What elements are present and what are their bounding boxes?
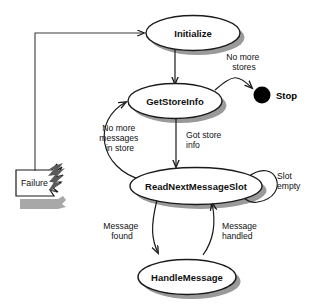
transition-label-no-more-stores: No more stores xyxy=(226,52,261,72)
label-line: info xyxy=(186,140,200,150)
state-node-initialize[interactable]: Initialize xyxy=(146,16,240,51)
label-line: Message xyxy=(103,221,138,231)
get-store-info-label: GetStoreInfo xyxy=(146,96,204,107)
read-next-message-slot-label: ReadNextMessageSlot xyxy=(145,181,248,192)
label-line: No more xyxy=(226,52,259,62)
state-node-get-store-info[interactable]: GetStoreInfo xyxy=(128,84,222,119)
label-line: empty xyxy=(277,181,301,191)
transition-label-no-more-messages-in-store: No more messages in store xyxy=(99,123,141,153)
transition-label-slot-empty: Slot empty xyxy=(277,171,301,191)
state-diagram-canvas: Failure No more stores Got store info No… xyxy=(0,0,315,308)
label-line: Slot xyxy=(277,171,292,181)
failure-note-label: Failure xyxy=(21,178,48,188)
initialize-label: Initialize xyxy=(174,28,211,39)
failure-note: Failure xyxy=(16,163,66,209)
transition-label-message-handled: Message handled xyxy=(222,221,259,241)
transition-label-got-store-info: Got store info xyxy=(186,130,224,150)
transition-handle-message-to-read-slot-path xyxy=(203,203,214,255)
stop-label: Stop xyxy=(276,90,297,101)
transition-read-slot-to-handle-message-path xyxy=(153,200,158,253)
state-machine-diagram: Failure No more stores Got store info No… xyxy=(0,0,315,308)
transition-get-store-info-to-stop-path xyxy=(215,78,252,90)
label-line: handled xyxy=(222,231,253,241)
label-line: messages xyxy=(99,133,138,143)
terminal-node-stop[interactable]: Stop xyxy=(254,87,298,104)
stop-filled-circle[interactable] xyxy=(254,87,271,104)
transition-read-slot-to-handle-message: Message found xyxy=(103,200,158,253)
state-node-handle-message[interactable]: HandleMessage xyxy=(138,260,236,295)
transition-get-store-info-to-stop: No more stores xyxy=(215,52,262,90)
failure-note-shadow xyxy=(20,196,66,209)
label-line: stores xyxy=(232,62,255,72)
label-line: in store xyxy=(106,143,134,153)
handle-message-label: HandleMessage xyxy=(151,272,223,283)
transition-label-message-found: Message found xyxy=(103,221,140,241)
label-line: No more xyxy=(102,123,135,133)
state-node-read-next-message-slot[interactable]: ReadNextMessageSlot xyxy=(130,168,262,205)
transition-handle-message-to-read-slot: Message handled xyxy=(203,203,259,255)
label-line: Message xyxy=(222,221,257,231)
transition-read-slot-to-get-store-info: No more messages in store xyxy=(99,102,142,180)
transition-get-store-info-to-read-slot: Got store info xyxy=(176,118,224,167)
label-line: found xyxy=(111,231,133,241)
label-line: Got store xyxy=(186,130,222,140)
